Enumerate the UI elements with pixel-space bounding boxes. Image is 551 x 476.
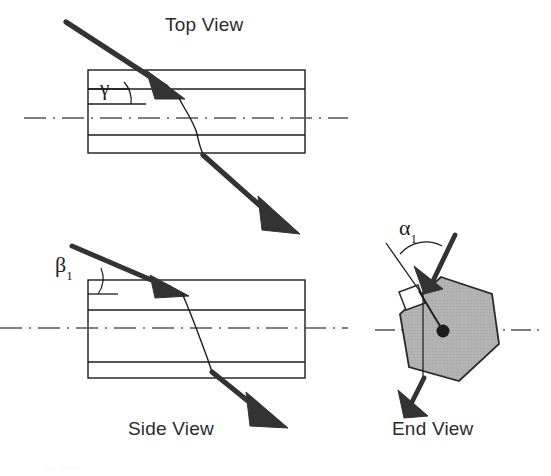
beta-symbol: β	[55, 252, 66, 277]
end-view-group	[375, 235, 545, 418]
alpha-subscript: 1	[411, 231, 418, 246]
diagram-canvas: Top View Side View End View γ β1 α1 ··· …	[0, 0, 551, 476]
end-view-outgoing-beam	[411, 378, 424, 404]
top-view-incoming-arrowhead	[146, 70, 185, 99]
side-view-refracted-path	[182, 293, 213, 373]
diagram-vector-graphic	[0, 0, 551, 476]
side-view-label: Side View	[128, 418, 214, 440]
beta-subscript: 1	[66, 268, 73, 283]
end-view-center-dot	[437, 325, 450, 338]
top-view-body-outline	[88, 70, 305, 153]
side-view-group	[0, 246, 348, 428]
beta-angle-label: β1	[55, 252, 73, 281]
end-view-label: End View	[392, 418, 474, 440]
gamma-angle-label: γ	[100, 76, 109, 101]
end-view-incoming-beam	[432, 235, 455, 283]
side-view-outgoing-arrowhead	[246, 392, 288, 428]
top-view-outgoing-arrowhead	[258, 196, 300, 234]
top-view-label: Top View	[165, 14, 243, 36]
scan-artifact-text: ··· ····	[44, 462, 81, 474]
top-view-refracted-path	[179, 98, 204, 156]
gamma-angle-arc	[124, 82, 131, 104]
alpha-symbol: α	[399, 215, 411, 240]
gamma-symbol: γ	[100, 76, 109, 100]
top-view-group	[24, 22, 348, 234]
alpha-angle-label: α1	[399, 215, 417, 244]
end-view-outgoing-arrowhead	[398, 390, 428, 418]
beta-angle-arc	[98, 268, 103, 294]
